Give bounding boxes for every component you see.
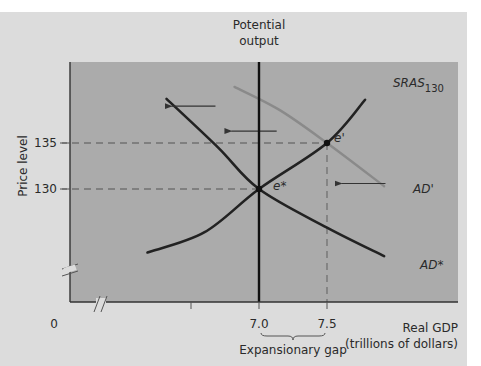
y-tick-label-135: 135 (34, 136, 57, 150)
x-tick-label-7-5: 7.5 (317, 317, 336, 331)
potential-output-label-line2: output (239, 34, 279, 48)
equilibrium-label-e-star: e* (273, 179, 286, 193)
series-label-sras-subscript: 130 (425, 83, 444, 94)
y-tick-label-130: 130 (34, 182, 57, 196)
series-label-ad-prime: AD' (412, 182, 434, 196)
expansionary-gap-brace (261, 333, 325, 340)
y-axis-label: Price level (16, 135, 30, 197)
expansionary-gap-label: Expansionary gap (239, 343, 347, 357)
origin-label: 0 (50, 317, 58, 331)
x-axis-label-line1: Real GDP (403, 321, 458, 335)
plot-area (70, 62, 458, 302)
series-label-sras-main: SRAS (393, 76, 425, 90)
x-tick-label-7-0: 7.0 (249, 317, 268, 331)
equilibrium-point-e-prime (324, 140, 330, 146)
x-axis-label-line2: (trillions of dollars) (345, 337, 458, 351)
expansionary-gap-annotation: Expansionary gap (239, 333, 347, 357)
chart: 1301357.07.5 e*e' Potential output Price… (0, 0, 481, 366)
series-label-ad-star: AD* (419, 258, 443, 272)
equilibrium-label-e-prime: e' (334, 131, 345, 145)
equilibrium-point-e-star (256, 186, 262, 192)
potential-output-label-line1: Potential (233, 18, 286, 32)
